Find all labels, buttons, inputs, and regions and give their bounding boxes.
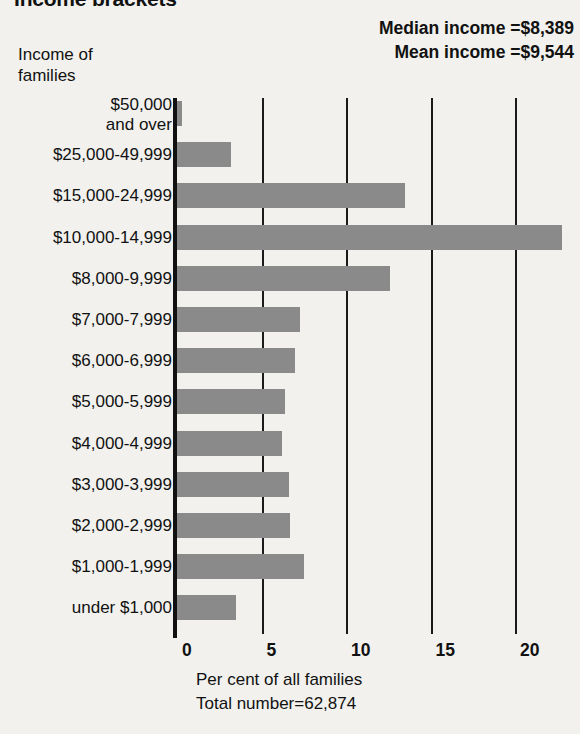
x-axis-title: Per cent of all families Total number=62…: [196, 668, 362, 716]
plot-area: [177, 98, 580, 634]
category-label: $8,000-9,999: [72, 269, 172, 289]
x-tick-label-15: 15: [436, 640, 455, 661]
gridline-20: [515, 98, 517, 634]
category-label-line1: $6,000-6,999: [72, 351, 172, 370]
gridline-10: [346, 98, 348, 634]
x-tick-label-5: 5: [267, 640, 277, 661]
x-tick-label-10: 10: [351, 640, 370, 661]
mean-income-stat: Mean income =$9,544: [379, 40, 574, 64]
category-label-line1: $10,000-14,999: [53, 228, 172, 247]
gridline-15: [431, 98, 433, 634]
category-label-line1: $5,000-5,999: [72, 392, 172, 411]
summary-stats: Median income =$8,389 Mean income =$9,54…: [379, 16, 574, 64]
bar: [177, 595, 236, 620]
category-label: $5,000-5,999: [72, 392, 172, 412]
category-label-line2: and over: [106, 115, 172, 135]
category-label-line1: $25,000-49,999: [53, 145, 172, 164]
x-axis-title-line2: Total number=62,874: [196, 692, 362, 716]
category-label: $10,000-14,999: [53, 228, 172, 248]
category-label-line1: $1,000-1,999: [72, 557, 172, 576]
y-axis-title: Income of families: [18, 44, 93, 86]
category-label: under $1,000: [72, 598, 172, 618]
category-label: $7,000-7,999: [72, 310, 172, 330]
chart-title: Income brackets: [14, 0, 177, 11]
bar: [177, 554, 304, 579]
bar: [177, 348, 295, 373]
x-tick-label-20: 20: [520, 640, 539, 661]
income-brackets-bar-chart: Income brackets Median income =$8,389 Me…: [0, 0, 580, 734]
bar: [177, 101, 182, 126]
bar: [177, 389, 285, 414]
category-label-line1: $15,000-24,999: [53, 186, 172, 205]
bar: [177, 225, 562, 250]
category-label: $2,000-2,999: [72, 516, 172, 536]
category-label: $4,000-4,999: [72, 434, 172, 454]
category-label-line1: under $1,000: [72, 598, 172, 617]
category-label-line1: $7,000-7,999: [72, 310, 172, 329]
category-label-line1: $50,000: [111, 95, 172, 114]
category-label: $50,000and over: [106, 95, 172, 135]
y-axis-title-line1: Income of: [18, 44, 93, 65]
bar: [177, 307, 300, 332]
y-axis-title-line2: families: [18, 65, 93, 86]
bar: [177, 142, 231, 167]
category-label-line1: $3,000-3,999: [72, 475, 172, 494]
category-label: $6,000-6,999: [72, 351, 172, 371]
bar: [177, 183, 405, 208]
median-income-stat: Median income =$8,389: [379, 16, 574, 40]
bar: [177, 266, 390, 291]
category-label-line1: $4,000-4,999: [72, 434, 172, 453]
category-label-line1: $2,000-2,999: [72, 516, 172, 535]
bar: [177, 513, 290, 538]
x-tick-label-0: 0: [182, 640, 192, 661]
category-label: $25,000-49,999: [53, 145, 172, 165]
category-label: $15,000-24,999: [53, 186, 172, 206]
value-axis-ticks: 05101520: [177, 640, 580, 666]
category-label: $3,000-3,999: [72, 475, 172, 495]
bar: [177, 472, 289, 497]
category-label-line1: $8,000-9,999: [72, 269, 172, 288]
category-axis-labels: $50,000and over$25,000-49,999$15,000-24,…: [0, 98, 172, 634]
bar: [177, 431, 282, 456]
x-axis-title-line1: Per cent of all families: [196, 668, 362, 692]
category-label: $1,000-1,999: [72, 557, 172, 577]
